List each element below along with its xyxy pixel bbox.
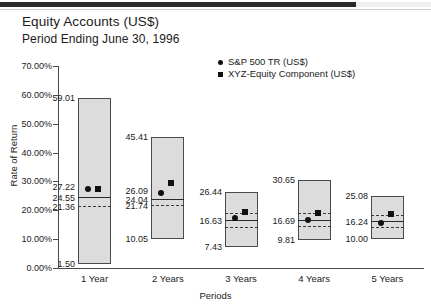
x-axis-line [58, 268, 424, 269]
bar-high-label: 26.44 [189, 188, 222, 197]
legend-label-sp500: S&P 500 TR (US$) [228, 56, 308, 68]
xyz-marker [242, 209, 248, 215]
y-axis-tick [53, 239, 58, 240]
range-bar [371, 196, 404, 240]
y-axis-tick [53, 181, 58, 182]
xyz-marker [388, 211, 394, 217]
x-category-label: 1 Year [60, 273, 130, 284]
x-category-label: 3 Years [206, 273, 276, 284]
xyz-marker [168, 180, 174, 186]
median-line [225, 220, 258, 221]
legend-label-xyz: XYZ-Equity Component (US$) [228, 68, 355, 80]
y-axis-tick [53, 268, 58, 269]
bar-low-label: 1.50 [42, 260, 75, 269]
y-axis-tick [53, 210, 58, 211]
y-axis-tick [53, 153, 58, 154]
x-category-label: 5 Years [352, 273, 422, 284]
y-axis-tick [53, 66, 58, 67]
range-bar [151, 137, 184, 239]
y-axis-tick [53, 124, 58, 125]
xyz-marker [95, 186, 101, 192]
median-value-label: 16.69 [262, 217, 295, 226]
sp500-marker [305, 217, 311, 223]
chart-legend: S&P 500 TR (US$) XYZ-Equity Component (U… [218, 56, 355, 80]
y-axis-tick [53, 95, 58, 96]
bar-low-label: 7.43 [189, 243, 222, 252]
y-axis-title: Rate of Return [8, 121, 19, 191]
bar-high-label: 25.08 [335, 192, 368, 201]
bar-low-label: 10.05 [115, 235, 148, 244]
median-line [371, 221, 404, 222]
median-line [78, 197, 111, 198]
median-line [151, 199, 184, 200]
lower-quartile-line [298, 226, 331, 227]
quartile-value-label: 21.74 [115, 202, 148, 211]
sp500-marker [158, 190, 164, 196]
quartile-value-label: 21.36 [42, 203, 75, 212]
median-value-label: 16.24 [335, 218, 368, 227]
circle-marker-icon [218, 60, 223, 65]
x-category-label: 4 Years [279, 273, 349, 284]
median-line [298, 220, 331, 221]
lower-quartile-line [225, 227, 258, 228]
square-marker-icon [218, 72, 223, 77]
bar-high-label: 45.41 [115, 133, 148, 142]
range-bar [78, 98, 111, 264]
legend-item-sp500: S&P 500 TR (US$) [218, 56, 355, 68]
bar-low-label: 10.00 [335, 235, 368, 244]
x-category-label: 2 Years [133, 273, 203, 284]
lower-quartile-line [78, 206, 111, 207]
legend-item-xyz: XYZ-Equity Component (US$) [218, 68, 355, 80]
header-divider [0, 9, 431, 10]
window-top-strip-dark [0, 2, 356, 7]
sp500-marker [378, 220, 384, 226]
sp500-marker [232, 215, 238, 221]
xyz-marker [315, 210, 321, 216]
y-tick-label: 70.00% [6, 62, 52, 71]
lower-quartile-line [371, 227, 404, 228]
bar-low-label: 9.81 [262, 236, 295, 245]
bar-high-label: 59.01 [42, 94, 75, 103]
median-value-label: 16.63 [189, 217, 222, 226]
y-tick-label: 10.00% [6, 235, 52, 244]
lower-quartile-line [151, 205, 184, 206]
sp500-value-label: 27.22 [42, 183, 75, 192]
bar-high-label: 30.65 [262, 176, 295, 185]
x-axis-title: Periods [0, 290, 431, 301]
